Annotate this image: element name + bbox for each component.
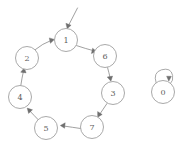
edge-1-to-6-line bbox=[77, 46, 94, 51]
edge-start-to-1 bbox=[66, 8, 78, 29]
edge-3-to-7-line bbox=[100, 104, 107, 115]
node-6[interactable]: 6 bbox=[94, 45, 117, 68]
edge-1-to-6 bbox=[77, 46, 97, 54]
edge-2-to-1 bbox=[35, 38, 54, 50]
edge-2-to-1-line bbox=[35, 40, 51, 49]
edge-7-to-5 bbox=[60, 123, 80, 129]
node-0[interactable]: 0 bbox=[152, 81, 175, 104]
node-1-label: 1 bbox=[63, 36, 68, 45]
node-3[interactable]: 3 bbox=[102, 82, 125, 105]
node-4-label: 4 bbox=[17, 93, 22, 102]
edge-0-self-loop-arrowhead bbox=[167, 76, 172, 81]
edge-7-to-5-line bbox=[64, 126, 81, 129]
node-2[interactable]: 2 bbox=[16, 47, 39, 70]
node-0-label: 0 bbox=[160, 88, 165, 97]
node-4[interactable]: 4 bbox=[9, 86, 32, 109]
graph-svg: 1 6 3 7 5 4 2 0 bbox=[0, 0, 183, 152]
node-7-label: 7 bbox=[89, 123, 94, 132]
node-7[interactable]: 7 bbox=[81, 116, 104, 139]
edge-start-to-1-arrowhead bbox=[66, 23, 71, 29]
node-5[interactable]: 5 bbox=[35, 117, 58, 140]
node-6-label: 6 bbox=[102, 52, 107, 61]
graph-canvas: 1 6 3 7 5 4 2 0 bbox=[0, 0, 183, 152]
node-5-label: 5 bbox=[43, 124, 48, 133]
node-1[interactable]: 1 bbox=[55, 29, 78, 52]
edge-7-to-5-arrowhead bbox=[60, 123, 65, 129]
node-3-label: 3 bbox=[110, 89, 115, 98]
edge-start-to-1-line bbox=[69, 8, 78, 26]
edge-5-to-4 bbox=[27, 108, 38, 120]
edge-5-to-4-line bbox=[30, 111, 39, 121]
edge-3-to-7-arrowhead bbox=[98, 112, 103, 118]
edge-6-to-3-arrowhead bbox=[107, 76, 112, 81]
edge-4-to-2-line bbox=[21, 71, 24, 86]
edge-2-to-1-arrowhead bbox=[49, 38, 54, 43]
edge-6-to-3 bbox=[107, 67, 112, 81]
node-2-label: 2 bbox=[24, 54, 29, 63]
edge-3-to-7 bbox=[98, 104, 107, 118]
edge-4-to-2 bbox=[21, 68, 26, 86]
